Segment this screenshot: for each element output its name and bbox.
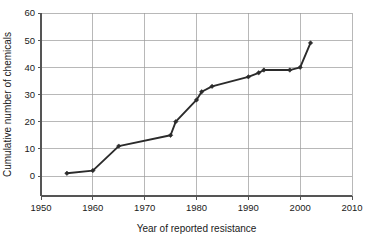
- y-axis-title: Cumulative number of chemicals: [2, 32, 13, 177]
- x-axis-title: Year of reported resistance: [137, 223, 257, 234]
- x-tick-label: 1960: [82, 202, 103, 213]
- y-tick-label: 10: [24, 143, 35, 154]
- y-tick-label: 0: [30, 170, 35, 181]
- y-tick-label: 30: [24, 89, 35, 100]
- chart-background: [0, 0, 369, 238]
- line-chart: 0102030405060 19501960197019801990200020…: [0, 0, 369, 238]
- y-tick-label: 40: [24, 62, 35, 73]
- y-tick-label: 20: [24, 116, 35, 127]
- x-tick-label: 2000: [290, 202, 311, 213]
- x-tick-label: 1990: [238, 202, 259, 213]
- x-tick-label: 1950: [30, 202, 51, 213]
- y-tick-label: 60: [24, 7, 35, 18]
- x-tick-label: 1980: [186, 202, 207, 213]
- x-tick-label: 2010: [341, 202, 362, 213]
- x-tick-label: 1970: [134, 202, 155, 213]
- chart-container: 0102030405060 19501960197019801990200020…: [0, 0, 369, 238]
- y-tick-label: 50: [24, 35, 35, 46]
